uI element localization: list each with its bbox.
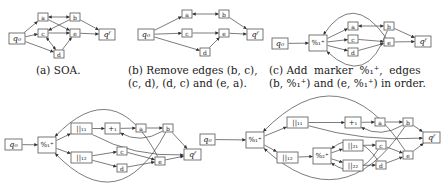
- node-d-activity-a: a: [136, 124, 146, 132]
- node-a-final-state: qᶠ: [99, 29, 115, 40]
- node-e-activity-e: e: [403, 151, 413, 159]
- node-c-activity-b: b: [384, 22, 394, 30]
- edge-e-d-e: [387, 157, 403, 163]
- node-label: qᶠ: [252, 30, 260, 39]
- caption-b-line1: (b) Remove edges (b, c),: [128, 64, 258, 77]
- node-label: b: [406, 119, 410, 126]
- edge-b-b-qf: [230, 18, 247, 29]
- node-label: e: [387, 39, 391, 46]
- node-c-activity-e: e: [384, 38, 394, 46]
- caption-c: (c) Add marker %₁⁺, edges (b, %₁⁺) and (…: [269, 64, 441, 90]
- node-d-activity-e: e: [155, 157, 165, 165]
- node-label: b: [387, 23, 391, 30]
- edge-b-d-e: [210, 38, 220, 48]
- node-label: ||₂₁: [348, 142, 359, 150]
- edge-c-m1-d: [328, 45, 348, 50]
- node-label: ||₁₂: [282, 154, 293, 162]
- node-label: d: [379, 162, 383, 169]
- node-label: qᶠ: [189, 150, 197, 159]
- edge-b-e-qf: [230, 33, 247, 34]
- edge-a-d-e: [62, 38, 71, 50]
- node-a-activity-a: a: [38, 13, 48, 21]
- node-d-parallel-11: ||₁₁: [71, 123, 92, 134]
- node-b-initial-state: q₀: [138, 29, 154, 40]
- edge-d-m1-par11: [57, 134, 71, 141]
- node-a-activity-b: b: [70, 13, 80, 21]
- edge-b-q0-c: [155, 33, 182, 34]
- edge-d-d-e: [128, 162, 155, 167]
- node-c-activity-c: c: [348, 35, 358, 43]
- node-e-parallel-21: ||₂₁: [343, 140, 363, 151]
- node-e-activity-a: a: [375, 118, 385, 126]
- diagram-canvas: q₀abcedqᶠq₀abcedqᶠq₀%₁⁺acdbeqᶠq₀%₁⁺||₁₁|…: [0, 0, 444, 187]
- node-label: e: [222, 30, 226, 37]
- node-label: e: [406, 152, 410, 159]
- edge-b-q0-d: [155, 37, 200, 50]
- node-label: b: [73, 14, 77, 21]
- node-b-activity-e: e: [219, 29, 229, 37]
- edge-c-m1-c: [328, 40, 348, 42]
- edge-e-m2-par21: [332, 149, 343, 153]
- caption-a-text: (a) SOA.: [36, 64, 81, 76]
- edge-d-e-qf: [166, 156, 184, 160]
- edge-a-q0-d: [26, 42, 54, 52]
- node-label: d: [351, 49, 355, 56]
- node-c-initial-state: q₀: [272, 38, 288, 49]
- node-e-parallel-22: ||₂₂: [343, 160, 363, 171]
- node-label: q₀: [13, 34, 22, 43]
- node-d-final-state: qᶠ: [184, 149, 201, 160]
- edge-e-par12-m2: [299, 156, 313, 157]
- edge-a-b-qf: [81, 20, 99, 30]
- edge-b-q0-a: [155, 17, 182, 31]
- edge-c-b-qf: [395, 29, 415, 38]
- node-b-activity-d: d: [200, 48, 210, 56]
- edge-a-e-qf: [81, 33, 99, 34]
- edge-e-m1-par11: [265, 127, 287, 136]
- edge-d-b-qf: [172, 133, 187, 149]
- node-label: %₁⁺: [40, 141, 53, 149]
- node-label: qᶠ: [104, 30, 112, 39]
- caption-a: (a) SOA.: [36, 64, 81, 77]
- node-label: q₀: [142, 30, 151, 39]
- node-e-marker-2: %₂⁺: [313, 148, 331, 164]
- edge-d-m1-par12: [57, 148, 71, 153]
- node-label: qᶠ: [428, 133, 436, 142]
- caption-b-line2: (c, d), (d, c) and (e, a).: [128, 77, 258, 90]
- node-d-activity-d: d: [117, 164, 127, 172]
- edge-d-par11-qf: [92, 135, 183, 156]
- node-c-activity-d: d: [348, 48, 358, 56]
- node-label: +₁: [349, 119, 358, 127]
- node-label: d: [57, 51, 61, 58]
- node-b-final-state: qᶠ: [247, 29, 263, 40]
- node-b-activity-c: c: [182, 29, 192, 37]
- node-label: a: [378, 119, 382, 126]
- node-label: ||₁₁: [292, 119, 303, 127]
- node-label: a: [185, 11, 189, 18]
- edge-a-q0-a: [24, 22, 37, 33]
- edge-e-m2-par22: [332, 159, 343, 162]
- node-d-plus-1: +₁: [105, 123, 120, 134]
- node-e-activity-b: b: [403, 118, 413, 126]
- node-e-parallel-11: ||₁₁: [287, 117, 308, 128]
- edge-c-m1-a: [328, 29, 348, 39]
- node-label: a: [41, 14, 45, 21]
- node-e-marker-1: %₁⁺: [246, 132, 264, 148]
- edge-e-par11-qf: [309, 126, 423, 139]
- node-label: a: [351, 23, 355, 30]
- node-c-final-state: qᶠ: [415, 36, 431, 47]
- node-d-activity-b: b: [163, 124, 173, 132]
- node-label: ||₂₂: [348, 162, 359, 170]
- node-label: %₁⁺: [248, 136, 261, 144]
- node-d-marker-1: %₁⁺: [38, 137, 56, 153]
- node-e-initial-state: q₀: [200, 134, 215, 145]
- node-label: qᶠ: [420, 37, 428, 46]
- node-d-parallel-12: ||₁₂: [71, 152, 92, 163]
- node-e-plus-1: +₁: [345, 117, 361, 128]
- node-label: %₁⁺: [311, 39, 324, 47]
- node-label: %₂⁺: [315, 152, 328, 160]
- node-a-initial-state: q₀: [9, 33, 25, 44]
- node-label: q₀: [276, 39, 285, 48]
- node-label: d: [120, 165, 124, 172]
- node-label: e: [158, 158, 162, 165]
- node-a-activity-d: d: [54, 50, 64, 58]
